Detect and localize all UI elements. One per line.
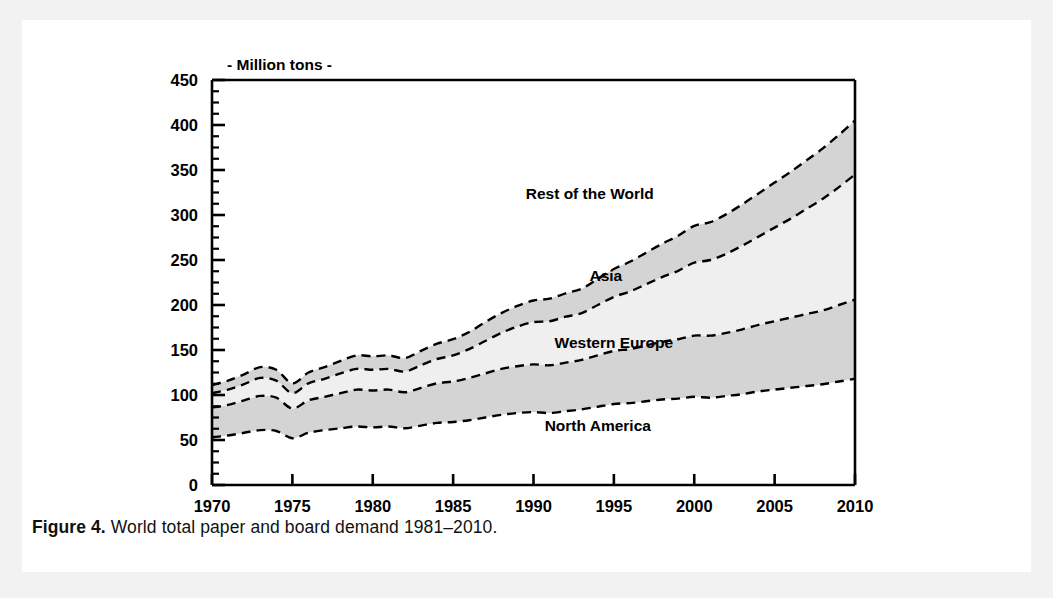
x-tick-label: 1995 (596, 497, 633, 515)
y-tick-label: 150 (170, 341, 198, 359)
series-label-north-america: North America (545, 417, 652, 434)
x-tick-label: 1975 (274, 497, 311, 515)
y-tick-label: 50 (180, 431, 198, 449)
figure-caption: Figure 4. World total paper and board de… (32, 517, 992, 538)
y-tick-label: 400 (170, 116, 198, 134)
x-tick-label: 2005 (756, 497, 793, 515)
y-tick-label: 100 (170, 386, 198, 404)
x-tick-label: 1990 (515, 497, 552, 515)
series-label-asia: Asia (589, 267, 622, 284)
x-tick-label: 1980 (354, 497, 391, 515)
y-tick-label: 0 (189, 476, 198, 494)
stacked-area-chart: 050100150200250300350400450 197019751980… (22, 20, 1031, 520)
figure-number: Figure 4. (32, 517, 106, 537)
figure-panel: 050100150200250300350400450 197019751980… (22, 20, 1031, 572)
x-tick-label: 2000 (676, 497, 713, 515)
page-frame: 050100150200250300350400450 197019751980… (0, 0, 1053, 598)
series-label-rest-of-the-world: Rest of the World (526, 185, 654, 202)
x-tick-label: 1985 (435, 497, 472, 515)
figure-container: 050100150200250300350400450 197019751980… (22, 20, 1031, 572)
y-tick-label: 450 (170, 71, 198, 89)
y-tick-label: 250 (170, 251, 198, 269)
x-tick-label: 1970 (194, 497, 231, 515)
y-tick-label: 200 (170, 296, 198, 314)
y-tick-label: 300 (170, 206, 198, 224)
y-tick-label: 350 (170, 161, 198, 179)
figure-caption-text: World total paper and board demand 1981–… (106, 517, 498, 537)
y-axis-unit-label: - Million tons - (227, 56, 332, 73)
x-tick-label: 2010 (837, 497, 874, 515)
series-label-western-europe: Western Europe (555, 334, 674, 351)
